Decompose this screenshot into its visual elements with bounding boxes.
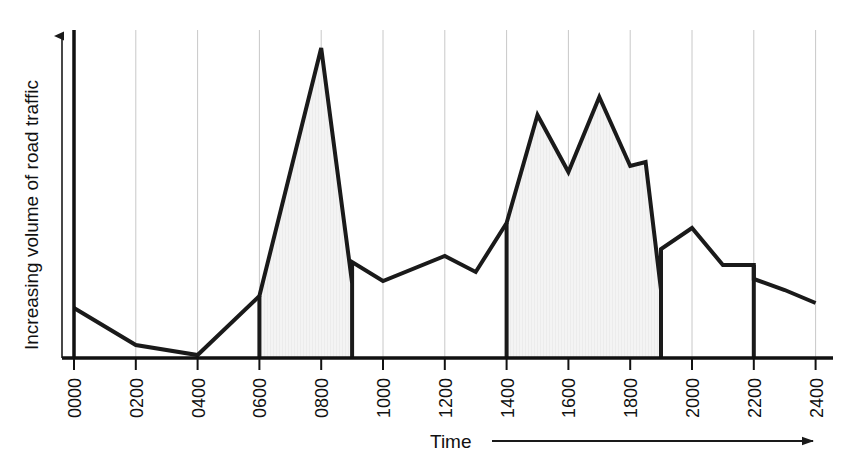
x-tick-label: 1600 bbox=[559, 378, 579, 418]
shaded-region-morning-peak bbox=[259, 48, 352, 358]
chart-canvas: 0000 0200 0400 0600 0800 1000 1200 1400 … bbox=[0, 0, 856, 472]
x-tick-label: 0400 bbox=[189, 378, 209, 418]
x-tick-label: 0200 bbox=[127, 378, 147, 418]
x-tick-label: 2200 bbox=[745, 378, 765, 418]
x-tick-label: 0000 bbox=[65, 378, 85, 418]
x-axis-title: Time bbox=[430, 431, 472, 452]
x-axis-ticks bbox=[74, 358, 816, 370]
x-tick-label: 1400 bbox=[498, 378, 518, 418]
x-tick-label: 0800 bbox=[312, 378, 332, 418]
gridlines bbox=[74, 30, 816, 358]
traffic-volume-chart: 0000 0200 0400 0600 0800 1000 1200 1400 … bbox=[0, 0, 856, 472]
x-tick-label: 1200 bbox=[436, 378, 456, 418]
x-tick-label: 0600 bbox=[250, 378, 270, 418]
x-tick-label: 2000 bbox=[683, 378, 703, 418]
x-tick-label: 2400 bbox=[807, 378, 827, 418]
x-axis-tick-labels: 0000 0200 0400 0600 0800 1000 1200 1400 … bbox=[65, 378, 827, 418]
y-axis-title: Increasing volume of road traffic bbox=[21, 80, 42, 350]
x-tick-label: 1000 bbox=[374, 378, 394, 418]
x-tick-label: 1800 bbox=[621, 378, 641, 418]
